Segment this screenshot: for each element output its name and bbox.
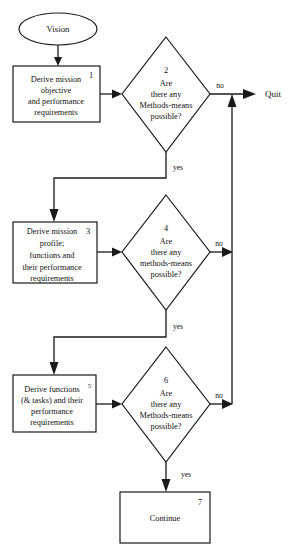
decision-6-line-4: possible?: [151, 422, 182, 431]
decision-6-number: 6: [164, 376, 168, 385]
connector-process1-to-decision2: [100, 90, 122, 99]
process-5-line-3: performance: [31, 407, 73, 416]
edge-label-decision6-no: no: [215, 391, 223, 400]
decision-4-line-3: methods-means: [140, 259, 192, 268]
edge-label-decision6-yes: yes: [181, 470, 191, 479]
decision-6-line-3: Methods-means: [140, 411, 193, 420]
process-1-line-1: Derive mission: [31, 75, 82, 84]
arrow-head-right-icon: [112, 248, 122, 257]
decision-2-line-2: there any: [151, 90, 182, 99]
connector-trunk-to-quit: [228, 94, 237, 404]
connector-process5-to-decision6: [96, 400, 122, 409]
connector-start-to-process1: [54, 45, 62, 66]
process-1-line-4: requirements: [34, 108, 77, 117]
process-5-line-4: requirements: [30, 418, 73, 427]
process-3-number: 3: [86, 227, 90, 236]
arrow-head-down-icon: [162, 479, 171, 492]
arrow-head-right-icon: [112, 400, 122, 409]
edge-label-decision2-yes: yes: [173, 163, 183, 172]
terminal-quit-label: Quit: [265, 89, 282, 99]
connector-decision4-no-to-trunk: no: [210, 239, 233, 257]
decision-2-number: 2: [164, 66, 168, 75]
process-1-line-2: objective: [41, 86, 72, 95]
flowchart-canvas: Vision 1 Derive mission objective and pe…: [0, 0, 297, 553]
decision-6-line-1: Are: [160, 389, 173, 398]
node-process-1[interactable]: 1 Derive mission objective and performan…: [13, 66, 100, 122]
process-5-line-1: Derive functions: [24, 385, 80, 394]
process-7-number: 7: [198, 498, 202, 507]
decision-6-line-2: there any: [151, 400, 182, 409]
process-3-line-5: requirements: [30, 274, 73, 283]
connector-decision6-no-to-trunk: no: [210, 391, 233, 409]
connector-decision2-no-to-quit: no: [210, 81, 256, 99]
process-7-line-1: Continue: [150, 514, 181, 523]
process-1-number: 1: [89, 71, 93, 80]
arrow-head-down-icon: [50, 209, 59, 222]
decision-4-line-1: Are: [160, 237, 173, 246]
connector-decision6-yes-to-process7: yes: [162, 462, 192, 492]
process-3-line-1: Derive mission: [27, 227, 78, 236]
edge-label-decision4-yes: yes: [173, 322, 183, 331]
node-process-3[interactable]: 3 Derive mission profile; functions and …: [13, 222, 97, 283]
edge-label-decision4-no: no: [215, 239, 223, 248]
edge-label-decision2-no: no: [216, 81, 224, 90]
process-3-line-2: profile;: [40, 239, 64, 248]
node-decision-4[interactable]: 4 Are there any methods-means possible?: [122, 195, 210, 310]
decision-2-line-4: possible?: [151, 112, 182, 121]
decision-2-line-1: Are: [160, 79, 173, 88]
process-3-line-4: their performance: [22, 263, 82, 272]
arrow-head-right-icon: [243, 89, 256, 99]
flowchart-diagram: Vision 1 Derive mission objective and pe…: [0, 0, 297, 553]
process-3-line-3: functions and: [30, 251, 76, 260]
node-start-vision[interactable]: Vision: [19, 13, 97, 45]
process-5-number: 5: [88, 383, 91, 389]
connector-process3-to-decision4: [97, 248, 122, 257]
node-process-7[interactable]: 7 Continue: [120, 492, 210, 543]
node-decision-2[interactable]: 2 Are there any Methods-means possible?: [122, 37, 210, 152]
decision-4-line-4: possible?: [151, 270, 182, 279]
arrow-head-down-icon: [50, 362, 59, 375]
decision-2-line-3: Methods-means: [140, 101, 193, 110]
decision-4-line-2: there any: [151, 248, 182, 257]
node-process-5[interactable]: Derive functions 5 (& tasks) and their p…: [13, 375, 96, 432]
node-decision-6[interactable]: 6 Are there any Methods-means possible?: [122, 347, 210, 462]
process-1-line-3: and performance: [28, 97, 84, 106]
arrow-head-down-icon: [54, 57, 62, 66]
process-5-line-2: (& tasks) and their: [21, 396, 83, 405]
arrow-head-right-icon: [112, 90, 122, 99]
start-label: Vision: [47, 24, 71, 34]
arrow-head-up-icon: [228, 94, 237, 107]
